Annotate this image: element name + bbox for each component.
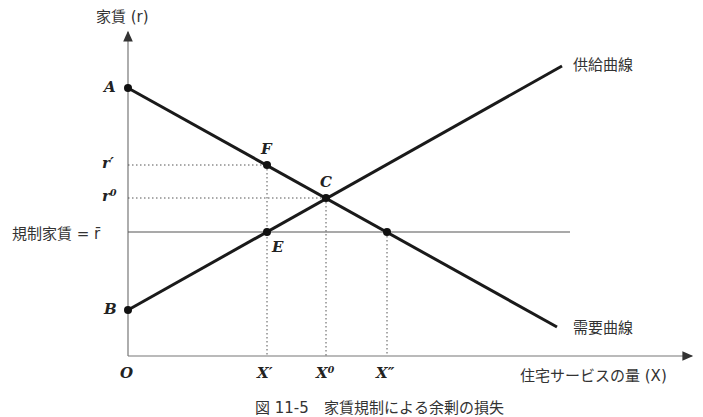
demand-curve xyxy=(128,88,557,327)
y-axis-label: 家賃 (r) xyxy=(96,5,149,26)
point-a-label: A xyxy=(104,78,116,96)
point-c-label: C xyxy=(320,173,332,191)
point-f-label: F xyxy=(261,140,272,158)
x-axis-label: 住宅サービスの量 (X) xyxy=(520,364,667,385)
x-dprime-label: X″ xyxy=(376,364,394,382)
r-prime-label: r′ xyxy=(102,154,114,172)
regulated-rent-label: 規制家賃 = r̄ xyxy=(12,222,100,243)
point-e-label: E xyxy=(272,238,283,256)
supply-curve xyxy=(128,66,562,310)
supply-curve-label: 供給曲線 xyxy=(573,53,633,74)
x-prime-label: X′ xyxy=(257,364,273,382)
demand-curve-label: 需要曲線 xyxy=(573,316,633,337)
origin-label: O xyxy=(120,364,133,382)
point-b-label: B xyxy=(104,300,117,318)
x-zero-label: X⁰ xyxy=(316,364,334,382)
r-zero-label: r⁰ xyxy=(102,187,116,205)
guide-lines xyxy=(128,165,387,356)
key-points xyxy=(124,84,391,314)
figure-caption: 図 11-5 家賃規制による余剰の損失 xyxy=(255,396,504,417)
